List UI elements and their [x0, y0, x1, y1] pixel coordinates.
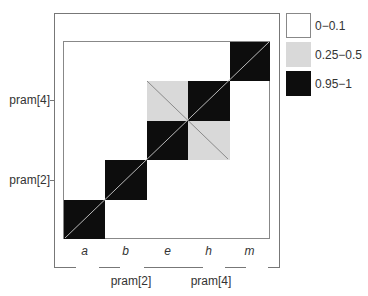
y-label-pram4: pram[4]: [0, 93, 50, 107]
legend-swatch-low: [286, 13, 311, 38]
y-label-pram2: pram[2]: [0, 173, 50, 187]
legend-label-high: 0.95−1: [315, 77, 352, 91]
legend-swatch-high: [286, 71, 311, 96]
x-label-h: h: [188, 244, 229, 258]
y-tick: [50, 100, 54, 101]
legend-label-mid: 0.25−0.5: [315, 48, 362, 62]
y-tick: [50, 180, 54, 181]
x-label-a: a: [64, 244, 105, 258]
legend-swatch-mid: [286, 42, 311, 67]
x-label-b: b: [105, 244, 146, 258]
x-label-e: e: [147, 244, 188, 258]
main-diagonal-line: [65, 42, 269, 238]
x-label-m: m: [229, 244, 270, 258]
x-group-label-pram2: pram[2]: [101, 274, 161, 288]
legend-label-low: 0−0.1: [315, 19, 345, 33]
x-group-label-pram4: pram[4]: [181, 274, 241, 288]
